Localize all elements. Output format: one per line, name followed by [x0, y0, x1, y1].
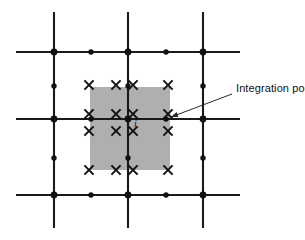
corner-node-6: [51, 192, 58, 199]
corner-node-1: [125, 49, 132, 56]
midside-node-9: [51, 155, 56, 160]
midside-node-10: [125, 155, 130, 160]
midside-node-11: [200, 155, 205, 160]
corner-node-2: [200, 49, 207, 56]
integration-point-callout-label: Integration point: [236, 82, 305, 94]
corner-node-7: [125, 192, 132, 199]
element-index-text: i: [134, 118, 137, 129]
integration-point-mesh-figure: i Integration point: [0, 0, 305, 240]
midside-node-4: [88, 192, 93, 197]
corner-node-3: [51, 116, 58, 123]
midside-node-0: [88, 49, 93, 54]
corner-node-0: [51, 49, 58, 56]
element-index-label: i: [134, 118, 137, 129]
corner-node-8: [200, 192, 207, 199]
midside-node-8: [200, 83, 205, 88]
mesh-diagram-canvas: i Integration point: [0, 0, 305, 240]
midside-node-5: [163, 192, 168, 197]
midside-node-1: [163, 49, 168, 54]
midside-node-6: [51, 83, 56, 88]
corner-node-5: [200, 116, 207, 123]
